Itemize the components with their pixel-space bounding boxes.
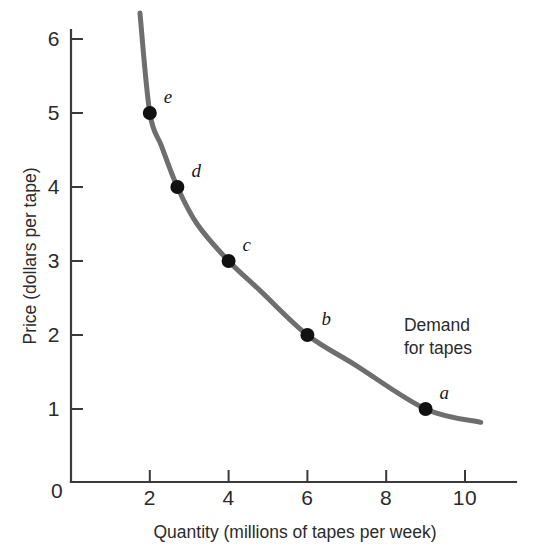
data-points-layer: edcba (143, 86, 449, 416)
data-point-label-e: e (164, 86, 172, 107)
demand-curve-chart: 123456 Price (dollars per tape) 0246810 … (0, 0, 553, 552)
y-axis-group: 123456 Price (dollars per tape) (20, 27, 83, 482)
x-tick-label-8: 8 (380, 486, 392, 509)
x-axis-group: 0246810 Quantity (millions of tapes per … (51, 470, 516, 542)
data-series-layer (140, 13, 481, 422)
data-point-a[interactable] (419, 402, 433, 416)
x-tick-label-2: 2 (144, 486, 156, 509)
data-point-label-a: a (440, 382, 450, 403)
y-tick-label-6: 6 (48, 27, 60, 50)
demand-curve-label-line-1: Demand (404, 315, 470, 335)
x-tick-label-0: 0 (51, 479, 63, 502)
chart-annotations-layer: Demandfor tapes (404, 315, 472, 358)
data-point-label-c: c (243, 234, 252, 255)
x-axis-tick-labels: 0246810 (51, 479, 477, 509)
y-tick-label-5: 5 (48, 101, 60, 124)
x-axis-ticks (150, 470, 465, 482)
data-point-b[interactable] (300, 328, 314, 342)
y-tick-label-2: 2 (48, 323, 60, 346)
data-point-c[interactable] (222, 254, 236, 268)
data-point-label-d: d (191, 160, 201, 181)
chart-page: 123456 Price (dollars per tape) 0246810 … (0, 0, 553, 552)
demand-curve-label-line-2: for tapes (404, 338, 472, 358)
data-point-d[interactable] (170, 180, 184, 194)
demand-curve-line (140, 13, 481, 422)
y-axis-title: Price (dollars per tape) (20, 167, 40, 344)
y-axis-tick-labels: 123456 (48, 27, 60, 420)
y-tick-label-3: 3 (48, 249, 60, 272)
y-axis-ticks (71, 39, 83, 409)
data-point-label-b: b (321, 308, 331, 329)
x-tick-label-10: 10 (453, 486, 477, 509)
y-tick-label-1: 1 (48, 397, 60, 420)
y-tick-label-4: 4 (48, 175, 60, 198)
x-axis-title: Quantity (millions of tapes per week) (153, 522, 436, 542)
data-point-e[interactable] (143, 106, 157, 120)
x-tick-label-4: 4 (223, 486, 235, 509)
x-tick-label-6: 6 (301, 486, 313, 509)
